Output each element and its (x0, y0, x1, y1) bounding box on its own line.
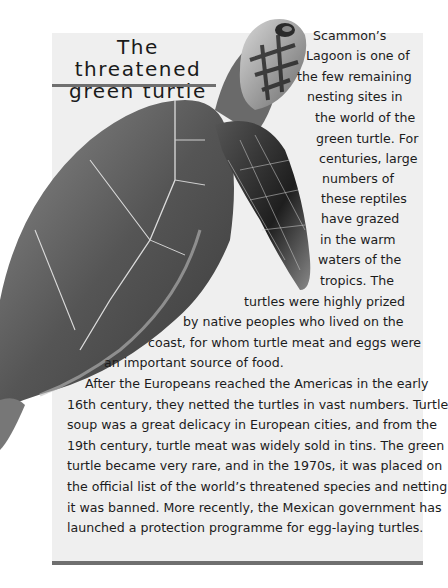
text-line: launched a protection programme for egg-… (67, 520, 423, 536)
text-line: soup was a great delicacy in European ci… (67, 417, 437, 433)
text-line: Scammon’s (313, 28, 386, 44)
text-line: the official list of the world’s threate… (67, 479, 447, 495)
text-line: centuries, large (319, 151, 417, 167)
text-line: turtles were highly prized (244, 294, 405, 310)
text-line: tropics. The (320, 273, 394, 289)
article-title: The threatened green turtle (58, 36, 218, 102)
text-line: numbers of (322, 171, 394, 187)
text-line: nesting sites in (307, 89, 403, 105)
text-line: the world of the (315, 110, 415, 126)
text-line: it was banned. More recently, the Mexica… (67, 500, 442, 516)
text-line: green turtle. For (316, 131, 418, 147)
text-line: have grazed (321, 211, 399, 227)
text-line: 19th century, turtle meat was widely sol… (67, 438, 444, 454)
text-line: Lagoon is one of (306, 48, 410, 64)
text-line: the few remaining (297, 69, 412, 85)
text-line: waters of the (318, 252, 401, 268)
text-line: these reptiles (321, 191, 407, 207)
bottom-rule (52, 561, 423, 565)
text-line: coast, for whom turtle meat and eggs wer… (148, 335, 421, 351)
text-line: an important source of food. (104, 355, 284, 371)
title-line-1: The threatened (75, 35, 202, 81)
text-line: turtle became very rare, and in the 1970… (67, 458, 442, 474)
title-line-2: green turtle (69, 79, 207, 103)
text-line: 16th century, they netted the turtles in… (67, 397, 448, 413)
title-rule (52, 84, 216, 87)
text-line: by native peoples who lived on the (183, 314, 404, 330)
text-line: in the warm (320, 232, 395, 248)
text-line: After the Europeans reached the Americas… (85, 376, 428, 392)
